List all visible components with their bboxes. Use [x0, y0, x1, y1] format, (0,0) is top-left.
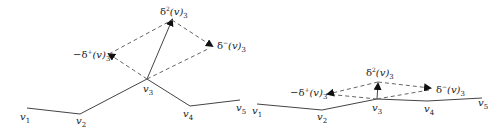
backward-arrow [172, 20, 212, 46]
second-diff-arrow [147, 20, 172, 79]
parallelogram-top-left [109, 20, 172, 54]
polyline-path [27, 79, 240, 114]
curvature-diagram-large: δ2(v)3 −δ+(v)3 δ−(v)3 v1 v2 v3 v4 v5 [0, 0, 252, 130]
vertex-label-v5: v5 [236, 102, 246, 116]
diagram-left: δ2(v)3 −δ+(v)3 δ−(v)3 v1 v2 v3 v4 v5 [0, 0, 252, 130]
vertex-label-v3: v3 [372, 102, 382, 116]
polyline-path [257, 98, 482, 110]
backward-arrow-dashed-base [377, 90, 429, 99]
parallelogram-top-left [328, 82, 378, 94]
backward-arrow [378, 82, 430, 88]
label-neg-forward: −δ+(v)3 [290, 86, 327, 101]
neg-forward-arrow [326, 94, 377, 99]
vertex-label-v4: v4 [183, 108, 194, 122]
vertex-label-v5: v5 [478, 97, 488, 111]
label-neg-forward: −δ+(v)3 [73, 48, 110, 63]
vertex-label-v2: v2 [317, 111, 327, 125]
label-backward: δ−(v)3 [217, 39, 246, 54]
label-second-diff: δ2(v)3 [366, 66, 394, 81]
vertex-label-v1: v1 [20, 111, 30, 125]
label-second-diff: δ2(v)3 [160, 5, 188, 20]
backward-arrow-dashed-base [147, 48, 210, 79]
vertex-label-v3: v3 [143, 83, 153, 97]
neg-forward-arrow [109, 54, 147, 79]
curvature-diagram-small: δ2(v)3 −δ+(v)3 δ−(v)3 v1 v2 v3 v4 v5 [252, 0, 504, 130]
vertex-label-v2: v2 [76, 115, 86, 129]
second-diff-arrow [377, 84, 378, 99]
vertex-label-v4: v4 [424, 103, 435, 117]
diagram-right: δ2(v)3 −δ+(v)3 δ−(v)3 v1 v2 v3 v4 v5 [252, 0, 504, 130]
label-backward: δ−(v)3 [436, 83, 465, 98]
vertex-label-v1: v1 [252, 105, 262, 119]
